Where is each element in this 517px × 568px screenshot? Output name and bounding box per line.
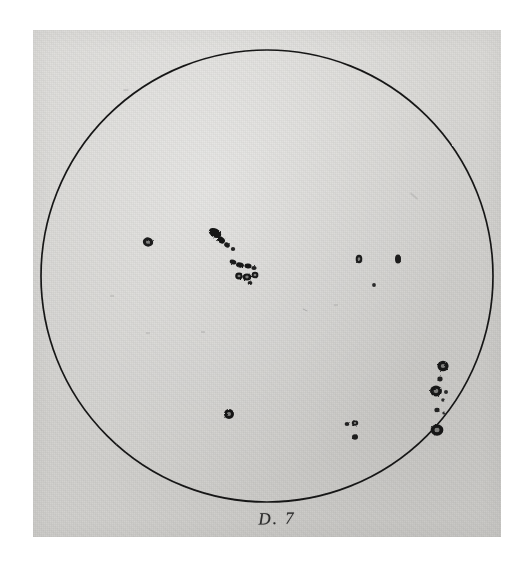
paper-sheet — [33, 30, 501, 537]
drawing-plate: D. 7 — [0, 0, 517, 568]
plate-caption: D. 7 — [232, 508, 322, 530]
